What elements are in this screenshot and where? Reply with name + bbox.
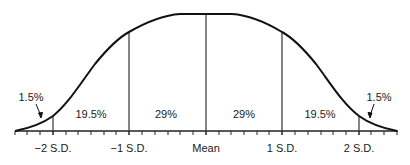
region-label-tail-right: 1.5% bbox=[366, 91, 391, 103]
region-label-mean-pos1: 29% bbox=[233, 108, 255, 120]
region-label-pos1-pos2: 19.5% bbox=[304, 108, 335, 120]
axis-label-pos2-sd: 2 S.D. bbox=[344, 142, 375, 154]
axis-label-neg1-sd: −1 S.D. bbox=[111, 142, 148, 154]
arrow-icon-left-tail bbox=[36, 104, 43, 118]
region-label-tail-left: 1.5% bbox=[18, 91, 43, 103]
axis-label-neg2-sd: −2 S.D. bbox=[35, 142, 72, 154]
region-label-neg1-mean: 29% bbox=[155, 108, 177, 120]
region-label-neg2-neg1: 19.5% bbox=[75, 108, 106, 120]
arrow-icon-right-tail bbox=[368, 104, 374, 118]
normal-distribution-figure: 1.5% 19.5% 29% 29% 19.5% 1.5% −2 S.D. −1… bbox=[0, 0, 410, 165]
axis-label-mean: Mean bbox=[192, 142, 220, 154]
axis-label-pos1-sd: 1 S.D. bbox=[267, 142, 298, 154]
